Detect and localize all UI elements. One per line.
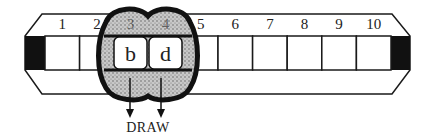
cell-number-7: 7	[266, 16, 274, 32]
left-end-cap	[25, 36, 45, 70]
tape-cell-9	[322, 36, 357, 70]
cell-number-2: 2	[93, 16, 101, 32]
cell-number-10: 10	[366, 16, 381, 32]
cell-number-8: 8	[301, 16, 309, 32]
tape-cell-8	[287, 36, 322, 70]
read-head[interactable]	[99, 9, 198, 100]
cell-number-1: 1	[59, 16, 67, 32]
tape-cell-6	[218, 36, 253, 70]
tape-diagram: 12345678910 bd34 DRAW	[0, 0, 437, 138]
head-cell-number-3: 3	[127, 16, 135, 32]
right-end-cap	[391, 36, 410, 70]
cell-number-6: 6	[232, 16, 240, 32]
arrow-head-left	[126, 109, 134, 118]
arrow-head-right	[157, 109, 165, 118]
tape-cell-10	[356, 36, 391, 70]
cell-number-5: 5	[197, 16, 205, 32]
cell-number-9: 9	[335, 16, 343, 32]
head-symbol-b: b	[125, 41, 136, 66]
draw-label: DRAW	[126, 120, 170, 135]
tape-cell-7	[253, 36, 288, 70]
tape-cell-1	[45, 36, 80, 70]
head-cell-number-4: 4	[162, 16, 170, 32]
head-symbol-d: d	[160, 41, 171, 66]
